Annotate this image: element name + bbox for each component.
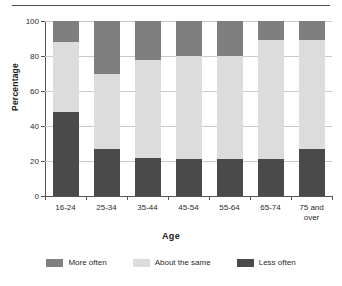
x-tick-mark <box>168 196 169 200</box>
bar-segment[interactable] <box>176 56 202 159</box>
bar-segment[interactable] <box>258 40 284 159</box>
legend-swatch-more-often <box>46 259 63 267</box>
y-tick-mark-60 <box>41 91 45 92</box>
x-tick-label-line: 25-34 <box>86 203 127 213</box>
bar-column[interactable] <box>299 21 325 196</box>
bar-segment[interactable] <box>53 112 79 196</box>
x-tick-label: 45-54 <box>168 203 209 213</box>
legend-swatch-less-often <box>237 259 254 267</box>
top-rule-divider <box>12 5 330 6</box>
y-tick-label-40: 40 <box>30 122 39 131</box>
chart-legend: More oftenAbout the sameLess often <box>0 258 342 267</box>
x-axis-title: Age <box>0 231 342 241</box>
y-tick-mark-100 <box>41 21 45 22</box>
x-tick-label-line: over <box>291 213 332 223</box>
x-tick-label-line: 55-64 <box>209 203 250 213</box>
bar-column[interactable] <box>258 21 284 196</box>
legend-item[interactable]: More often <box>46 258 106 267</box>
x-tick-label: 16-24 <box>45 203 86 213</box>
bar-segment[interactable] <box>176 21 202 56</box>
bar-column[interactable] <box>217 21 243 196</box>
x-tick-label: 75 andover <box>291 203 332 223</box>
y-tick-label-80: 80 <box>30 52 39 61</box>
x-tick-mark <box>127 196 128 200</box>
bar-segment[interactable] <box>217 21 243 56</box>
bar-segment[interactable] <box>258 159 284 196</box>
bar-segment[interactable] <box>299 40 325 149</box>
legend-item[interactable]: About the same <box>133 258 211 267</box>
bar-segment[interactable] <box>217 56 243 159</box>
x-tick-label-line: 35-44 <box>127 203 168 213</box>
y-tick-mark-80 <box>41 56 45 57</box>
y-tick-label-0: 0 <box>35 192 39 201</box>
bar-segment[interactable] <box>176 159 202 196</box>
x-tick-label: 25-34 <box>86 203 127 213</box>
bar-segment[interactable] <box>94 21 120 74</box>
x-tick-mark <box>250 196 251 200</box>
plot-area: 020406080100 <box>45 21 332 196</box>
bar-segment[interactable] <box>258 21 284 40</box>
x-tick-mark <box>209 196 210 200</box>
y-tick-label-20: 20 <box>30 157 39 166</box>
legend-label: More often <box>68 258 106 267</box>
bar-column[interactable] <box>53 21 79 196</box>
bar-segment[interactable] <box>94 74 120 149</box>
bar-segment[interactable] <box>53 21 79 42</box>
y-tick-label-100: 100 <box>26 17 39 26</box>
x-tick-mark <box>45 196 46 200</box>
x-tick-mark <box>86 196 87 200</box>
bar-column[interactable] <box>94 21 120 196</box>
legend-label: Less often <box>259 258 296 267</box>
x-tick-label: 65-74 <box>250 203 291 213</box>
y-tick-label-60: 60 <box>30 87 39 96</box>
legend-item[interactable]: Less often <box>237 258 296 267</box>
x-tick-label: 55-64 <box>209 203 250 213</box>
bar-segment[interactable] <box>299 21 325 40</box>
y-axis-title: Percentage <box>10 42 20 132</box>
bar-segment[interactable] <box>135 21 161 60</box>
legend-swatch-about-the-same <box>133 259 150 267</box>
bar-segment[interactable] <box>299 149 325 196</box>
gridline-0: 0 <box>45 196 332 197</box>
y-tick-mark-20 <box>41 161 45 162</box>
chart-figure: Percentage 020406080100 16-2425-3435-444… <box>0 0 342 286</box>
legend-label: About the same <box>155 258 211 267</box>
x-tick-mark <box>291 196 292 200</box>
x-tick-label-line: 16-24 <box>45 203 86 213</box>
bar-segment[interactable] <box>135 158 161 197</box>
bar-column[interactable] <box>135 21 161 196</box>
bar-segment[interactable] <box>135 60 161 158</box>
x-tick-label-line: 45-54 <box>168 203 209 213</box>
x-tick-label: 35-44 <box>127 203 168 213</box>
bar-segment[interactable] <box>217 159 243 196</box>
bar-column[interactable] <box>176 21 202 196</box>
bar-segment[interactable] <box>94 149 120 196</box>
y-tick-mark-40 <box>41 126 45 127</box>
x-tick-mark <box>332 196 333 200</box>
x-tick-label-line: 75 and <box>291 203 332 213</box>
bar-segment[interactable] <box>53 42 79 112</box>
x-tick-label-line: 65-74 <box>250 203 291 213</box>
